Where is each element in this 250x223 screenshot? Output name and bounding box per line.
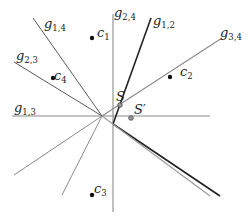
line-ext-c: [102, 116, 210, 196]
point-label-c3: c3: [94, 181, 107, 198]
marker-label-S: S: [116, 89, 125, 104]
line-label-g24: g2,4: [114, 5, 136, 22]
line-label-g13: g1,3: [14, 100, 36, 117]
line-arrangement-diagram: g1,3g2,4g1,2g3,4g2,3g1,4c1c2c3c4SS′: [0, 0, 250, 223]
line-label-g34: g3,4: [220, 25, 242, 42]
labels-layer: g1,3g2,4g1,2g3,4g2,3g1,4c1c2c3c4SS′: [14, 5, 242, 198]
markers-layer: [118, 103, 134, 121]
marker-Sprime: [129, 116, 134, 121]
point-c2: [168, 75, 172, 79]
point-label-c4: c4: [54, 68, 67, 85]
point-label-c1: c1: [97, 25, 110, 42]
line-g12b: [113, 124, 220, 196]
point-label-c2: c2: [180, 64, 193, 81]
line-ext-a: [14, 116, 102, 175]
line-g14: [33, 18, 102, 116]
line-label-g23: g2,3: [16, 48, 38, 65]
line-label-g14: g1,4: [44, 16, 66, 33]
marker-label-Sprime: S′: [134, 102, 146, 117]
lines-layer: [12, 14, 222, 212]
point-c1: [90, 36, 94, 40]
line-label-g12: g1,2: [153, 13, 175, 30]
